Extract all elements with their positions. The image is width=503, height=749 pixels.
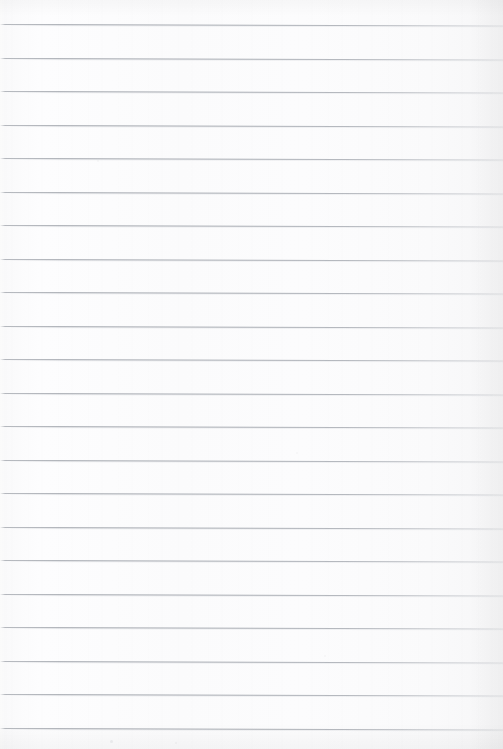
paper-background (0, 0, 503, 749)
scanned-notebook-page (0, 0, 503, 749)
